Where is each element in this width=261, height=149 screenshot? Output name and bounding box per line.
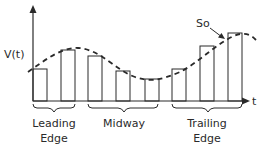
group-label-leading-edge: Edge	[40, 132, 68, 145]
group-label-midway: Midway	[103, 117, 145, 130]
so-annotation: So	[196, 17, 210, 30]
sample-bar-3	[88, 56, 102, 101]
y-axis-label: V(t)	[4, 48, 24, 61]
so-pointer-arrow-icon	[218, 33, 225, 39]
sample-bars	[33, 33, 242, 101]
y-axis-arrow-icon	[30, 5, 37, 13]
group-label-trailing: Trailing	[186, 117, 227, 130]
sample-bar-2	[61, 50, 75, 101]
group-label-leading: Leading	[32, 117, 75, 130]
sampling-diagram: V(t) t So Leading Edge Midway Trailing E…	[0, 0, 261, 149]
x-axis-arrow-icon	[242, 98, 250, 105]
brace-midway	[88, 104, 158, 112]
brace-leading-edge	[33, 104, 75, 112]
sample-bar-6	[172, 69, 186, 101]
sample-bar-8	[228, 33, 242, 101]
group-label-trailing-edge: Edge	[193, 132, 221, 145]
brace-trailing-edge	[172, 104, 242, 112]
sample-bar-1	[33, 69, 47, 101]
signal-curve	[28, 34, 256, 80]
x-axis-label: t	[252, 95, 257, 108]
sample-bar-4	[116, 71, 130, 101]
sample-bar-5	[145, 79, 159, 101]
